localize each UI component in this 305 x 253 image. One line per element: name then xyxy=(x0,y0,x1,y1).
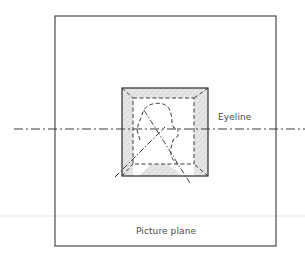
picture-plane-label: Picture plane xyxy=(136,226,196,236)
perspective-diagram xyxy=(0,0,305,253)
diagram-canvas: Eyeline Picture plane xyxy=(0,0,305,253)
eyeline-label: Eyeline xyxy=(218,112,252,122)
